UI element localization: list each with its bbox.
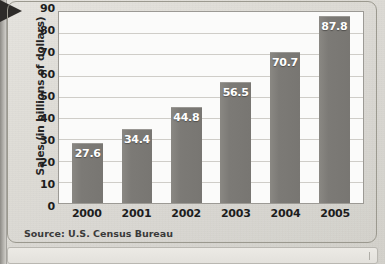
y-tick-label: 80 bbox=[40, 23, 55, 36]
x-tick-label: 2004 bbox=[264, 207, 307, 223]
bar-value-label: 56.5 bbox=[220, 86, 251, 99]
bar-value-label: 27.6 bbox=[72, 147, 103, 160]
x-tick-label: 2000 bbox=[65, 207, 108, 223]
bar-2000[interactable]: 27.6 bbox=[72, 143, 103, 203]
y-tick-label: 70 bbox=[40, 45, 55, 58]
x-tick-label: 2002 bbox=[165, 207, 208, 223]
y-tick-label: 50 bbox=[40, 89, 55, 102]
bar-slot: 87.8 bbox=[313, 12, 356, 203]
bar-2004[interactable]: 70.7 bbox=[270, 52, 301, 203]
source-caption: Source: U.S. Census Bureau bbox=[24, 228, 173, 239]
bar-value-label: 87.8 bbox=[319, 20, 350, 33]
plot-area: 27.6 34.4 44.8 56.5 70.7 bbox=[58, 11, 364, 204]
bar-2003[interactable]: 56.5 bbox=[220, 82, 251, 203]
bar-slot: 27.6 bbox=[66, 12, 109, 203]
y-tick-label: 90 bbox=[40, 2, 55, 15]
y-axis-tick-labels: 90 80 70 60 50 40 30 20 10 0 bbox=[26, 8, 55, 206]
bar-slot: 70.7 bbox=[264, 12, 307, 203]
bar-slot: 44.8 bbox=[165, 12, 208, 203]
bar-slot: 56.5 bbox=[214, 12, 257, 203]
y-tick-label: 20 bbox=[40, 155, 55, 168]
bar-2005[interactable]: 87.8 bbox=[319, 16, 350, 203]
y-tick-label: 30 bbox=[40, 133, 55, 146]
bar-chart: Sales (in billions of dollars) 90 80 70 … bbox=[12, 4, 374, 240]
x-axis-tick-labels: 2000 2001 2002 2003 2004 2005 bbox=[58, 207, 364, 223]
x-tick-label: 2001 bbox=[115, 207, 158, 223]
y-tick-label: 60 bbox=[40, 67, 55, 80]
bar-series: 27.6 34.4 44.8 56.5 70.7 bbox=[59, 12, 363, 203]
page-lower-band-tick bbox=[369, 252, 374, 260]
page-lower-band bbox=[7, 247, 378, 264]
x-tick-label: 2003 bbox=[214, 207, 257, 223]
bar-value-label: 44.8 bbox=[171, 111, 202, 124]
y-tick-label: 40 bbox=[40, 111, 55, 124]
bar-value-label: 70.7 bbox=[270, 56, 301, 69]
bar-2001[interactable]: 34.4 bbox=[122, 129, 153, 203]
y-tick-label: 10 bbox=[40, 177, 55, 190]
bar-slot: 34.4 bbox=[116, 12, 159, 203]
bar-value-label: 34.4 bbox=[122, 133, 153, 146]
y-tick-label: 0 bbox=[48, 200, 55, 213]
x-tick-label: 2005 bbox=[314, 207, 357, 223]
bar-2002[interactable]: 44.8 bbox=[171, 107, 202, 203]
